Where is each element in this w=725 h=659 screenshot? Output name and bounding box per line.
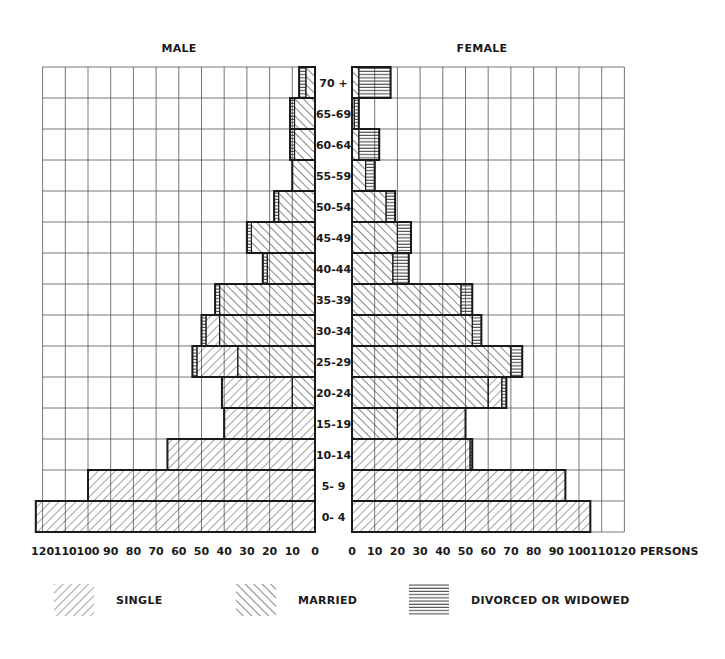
x-tick-label: 40 [435,545,451,558]
x-tick-label: 10 [367,545,383,558]
male-bar-married [238,346,315,377]
age-group-label: 70 + [319,77,347,90]
male-bar-single [167,439,315,470]
male-bar-single [36,501,315,532]
x-tick-label: 100 [77,545,100,558]
x-tick-label: 120 [613,545,636,558]
x-tick-label: 10 [285,545,301,558]
age-group-label: 55-59 [316,170,351,183]
legend: SINGLE MARRIED DIVORCED OR WIDOWED [0,584,725,624]
age-group-label: 10-14 [316,449,352,462]
x-tick-label: 20 [262,545,278,558]
age-group-label: 35-39 [316,294,351,307]
divorced-hatch-swatch-icon [409,584,449,616]
female-bar-divorced-or-widowed [461,284,472,315]
x-tick-label: 60 [481,545,497,558]
x-tick-label: 40 [217,545,233,558]
age-group-label: 50-54 [316,201,352,214]
age-group-labels: 70 +65-6960-6455-5950-5445-4940-4435-393… [316,77,352,524]
female-bars [352,67,590,532]
age-group-label: 20-24 [316,387,352,400]
female-bar-single [397,408,465,439]
female-bar-single [488,377,502,408]
single-hatch-swatch-icon [54,584,94,616]
age-group-label: 15-19 [316,418,351,431]
x-tick-label: 60 [171,545,187,558]
male-bar-married [279,191,315,222]
female-bar-divorced-or-widowed [359,67,391,98]
age-group-label: 45-49 [316,232,351,245]
female-bar-married [352,191,386,222]
legend-label-married: MARRIED [298,594,357,607]
male-bar-married [295,129,315,160]
age-group-label: 5- 9 [322,480,346,493]
x-tick-label: 0 [348,545,356,558]
female-x-axis-ticks: 0102030405060708090100110120 [348,545,636,558]
female-bar-married [352,284,461,315]
female-bar-single [352,501,590,532]
x-tick-label: 120 [31,545,54,558]
male-bar-married [267,253,315,284]
female-bar-married [352,408,397,439]
female-bar-married [352,253,393,284]
male-x-axis-ticks: 0102030405060708090100110120 [31,545,319,558]
x-axis-unit-label: PERSONS [640,545,699,558]
female-bar-married [352,160,366,191]
legend-item-married: MARRIED [236,584,357,616]
x-tick-label: 0 [311,545,319,558]
x-tick-label: 70 [503,545,519,558]
male-bar-married [220,284,315,315]
x-tick-label: 80 [526,545,542,558]
x-tick-label: 20 [390,545,406,558]
female-bar-divorced-or-widowed [472,315,481,346]
age-group-label: 65-69 [316,108,351,121]
age-group-label: 25-29 [316,356,351,369]
male-bar-single [88,470,315,501]
male-bar-married [220,315,315,346]
x-tick-label: 90 [549,545,565,558]
x-tick-label: 110 [54,545,77,558]
age-group-label: 60-64 [316,139,352,152]
female-bar-divorced-or-widowed [397,222,411,253]
male-bar-single [206,315,220,346]
male-bar-single [224,408,315,439]
male-bar-married [306,67,315,98]
legend-label-divorced-or-widowed: DIVORCED OR WIDOWED [471,594,630,607]
female-bar-divorced-or-widowed [359,129,379,160]
female-bar-divorced-or-widowed [366,160,375,191]
x-tick-label: 30 [412,545,428,558]
female-bar-single [352,470,565,501]
male-bar-divorced-or-widowed [299,67,306,98]
age-group-label: 0- 4 [322,511,346,524]
x-tick-label: 30 [239,545,255,558]
x-tick-label: 80 [126,545,142,558]
female-bar-married [352,346,511,377]
legend-item-single: SINGLE [54,584,163,616]
female-bar-married [352,67,359,98]
legend-item-divorced-or-widowed: DIVORCED OR WIDOWED [409,584,630,616]
x-tick-label: 90 [103,545,119,558]
female-bar-married [352,222,397,253]
male-bar-married [251,222,315,253]
male-bar-married [292,160,315,191]
age-group-label: 40-44 [316,263,352,276]
female-bar-divorced-or-widowed [386,191,395,222]
male-title: MALE [161,42,196,55]
married-hatch-swatch-icon [236,584,276,616]
male-bar-single [222,377,292,408]
male-bar-married [295,98,315,129]
female-bar-divorced-or-widowed [393,253,409,284]
x-tick-label: 50 [458,545,474,558]
legend-label-single: SINGLE [116,594,163,607]
female-bar-single [352,439,470,470]
x-tick-label: 50 [194,545,210,558]
male-bar-married [292,377,315,408]
age-group-label: 30-34 [316,325,352,338]
female-bar-married [352,377,488,408]
population-pyramid-chart: MALE FEMALE 70 +65-6960-6455-5950-5445-4… [0,0,725,659]
male-bars [36,67,315,532]
female-bar-divorced-or-widowed [511,346,522,377]
x-tick-label: 100 [568,545,591,558]
female-bar-married [352,315,472,346]
x-tick-label: 110 [590,545,613,558]
